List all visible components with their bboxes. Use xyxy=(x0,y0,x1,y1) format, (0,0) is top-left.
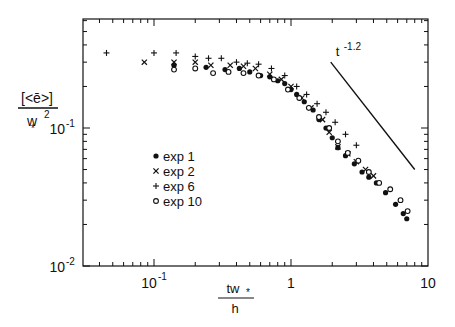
trend-line xyxy=(331,62,415,169)
legend: exp 1exp 2exp 6exp 10 xyxy=(153,149,202,209)
svg-text:exp 2: exp 2 xyxy=(163,164,195,179)
x-tick-label: 10 xyxy=(420,275,436,291)
x-tick-label: 10-1 xyxy=(141,271,167,291)
x-label-numerator: tw xyxy=(227,281,241,296)
trend-annotation: t-1.2 xyxy=(331,41,415,169)
svg-text:exp 6: exp 6 xyxy=(163,179,195,194)
svg-text:2: 2 xyxy=(44,109,50,120)
svg-text:10: 10 xyxy=(420,275,436,291)
y-tick-label: 10-2 xyxy=(49,256,75,275)
svg-text:10: 10 xyxy=(141,275,157,291)
svg-text:*: * xyxy=(246,287,250,298)
svg-text:-1: -1 xyxy=(158,271,167,282)
data-points xyxy=(103,50,410,221)
svg-text:-2: -2 xyxy=(66,256,75,267)
axis-ticks xyxy=(83,19,428,266)
svg-text:exp 1: exp 1 xyxy=(163,149,195,164)
svg-text:exp 10: exp 10 xyxy=(163,194,202,209)
svg-text:*: * xyxy=(31,123,35,134)
svg-text:-1: -1 xyxy=(66,118,75,129)
chart: 10-111010-110-2 t-1.2 exp 1exp 2exp 6exp… xyxy=(0,0,455,327)
axis-tick-labels: 10-111010-110-2 xyxy=(49,118,436,291)
svg-text:-1.2: -1.2 xyxy=(344,41,362,52)
legend-item: exp 6 xyxy=(153,179,195,194)
x-axis-label: tw * h xyxy=(218,281,254,316)
trend-label: t xyxy=(336,44,340,59)
svg-text:10: 10 xyxy=(49,259,65,275)
svg-text:1: 1 xyxy=(287,275,295,291)
plot-frame xyxy=(83,19,428,266)
svg-text:10: 10 xyxy=(49,121,65,137)
x-label-denominator: h xyxy=(231,301,238,316)
y-label-numerator: [<ē>] xyxy=(21,90,53,106)
legend-item: exp 1 xyxy=(153,149,194,164)
y-tick-label: 10-1 xyxy=(49,118,75,137)
legend-item: exp 10 xyxy=(154,194,202,209)
legend-item: exp 2 xyxy=(153,164,194,179)
x-tick-label: 1 xyxy=(287,275,295,291)
